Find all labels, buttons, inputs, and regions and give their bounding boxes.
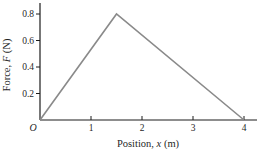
- data-series-group: [40, 14, 244, 120]
- x-axis-title: Position, x (m): [117, 138, 180, 150]
- x-tick-label: 1: [89, 123, 94, 133]
- origin-label: O: [29, 122, 36, 133]
- tick-labels-group: 12340.20.40.60.8: [22, 9, 247, 133]
- y-axis-title: Force, F (N): [1, 38, 13, 91]
- tick-marks-group: [36, 14, 244, 120]
- y-tick-label: 0.2: [22, 89, 34, 99]
- x-axis-title-suffix: (m): [161, 138, 179, 150]
- x-axis-title-prefix: Position,: [117, 138, 157, 149]
- x-tick-label: 2: [140, 123, 145, 133]
- y-axis-title-suffix: (N): [1, 38, 13, 56]
- axes-group: [40, 3, 257, 120]
- x-tick-label: 4: [242, 123, 247, 133]
- y-tick-label: 0.8: [22, 9, 34, 19]
- y-tick-label: 0.6: [22, 36, 34, 46]
- force-line: [40, 14, 244, 120]
- plot-canvas: 12340.20.40.60.8 O Position, x (m) Force…: [0, 0, 267, 155]
- y-tick-label: 0.4: [22, 62, 34, 72]
- y-axis-title-prefix: Force,: [1, 62, 12, 91]
- x-tick-label: 3: [191, 123, 196, 133]
- force-position-graph: 12340.20.40.60.8 O Position, x (m) Force…: [0, 0, 267, 155]
